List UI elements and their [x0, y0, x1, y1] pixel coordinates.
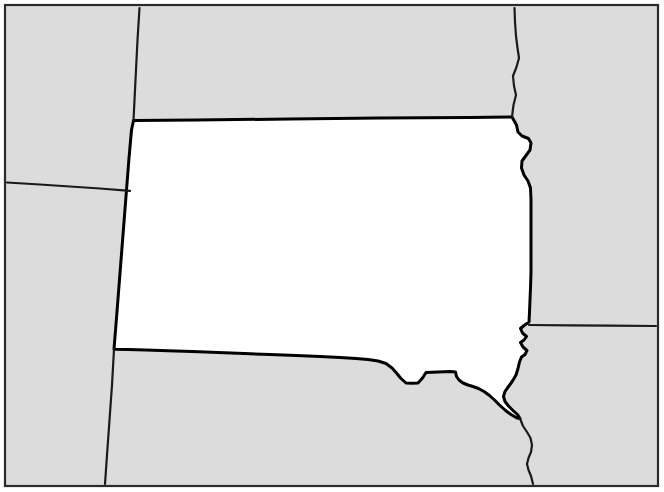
minnesota-iowa-border	[529, 325, 656, 326]
map-container	[0, 0, 664, 492]
map-svg	[0, 0, 664, 492]
